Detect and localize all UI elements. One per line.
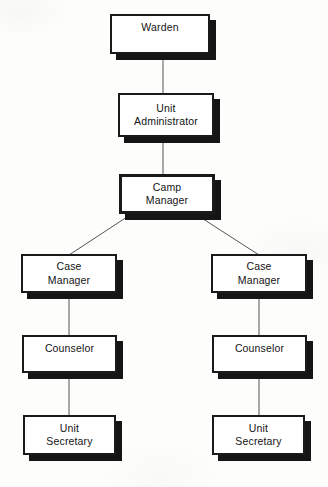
node-unit-secretary-left-label-line1: Unit [46, 422, 92, 436]
node-unit-administrator-label-line2: Administrator [134, 115, 198, 129]
connector-camp-manager-to-case-manager-right [197, 215, 259, 255]
org-chart: Warden Unit Administrator Camp Manager C… [0, 0, 328, 487]
node-warden-label: Warden [112, 21, 208, 35]
node-warden[interactable]: Warden [110, 14, 210, 54]
node-counselor-right[interactable]: Counselor [212, 335, 307, 373]
node-counselor-right-label: Counselor [214, 342, 305, 356]
node-unit-secretary-left[interactable]: Unit Secretary [23, 415, 116, 455]
node-camp-manager-label-line2: Manager [146, 194, 189, 208]
node-case-manager-left-label-line1: Case [48, 260, 91, 274]
node-case-manager-left-label-line2: Manager [48, 274, 91, 288]
node-unit-administrator[interactable]: Unit Administrator [118, 93, 214, 137]
node-unit-administrator-label-line1: Unit [134, 102, 198, 116]
connector-layer [0, 0, 328, 487]
node-case-manager-left[interactable]: Case Manager [21, 254, 117, 293]
node-unit-secretary-right-label-line1: Unit [235, 422, 281, 436]
node-case-manager-right[interactable]: Case Manager [211, 254, 307, 293]
connector-camp-manager-to-case-manager-left [69, 215, 130, 255]
node-unit-secretary-right-label-line2: Secretary [235, 435, 281, 449]
node-unit-secretary-right[interactable]: Unit Secretary [212, 415, 305, 455]
node-camp-manager[interactable]: Camp Manager [119, 174, 215, 214]
node-case-manager-right-label-line1: Case [238, 260, 281, 274]
node-counselor-left-label: Counselor [24, 342, 115, 356]
node-camp-manager-label-line1: Camp [146, 181, 189, 195]
node-unit-secretary-left-label-line2: Secretary [46, 435, 92, 449]
node-counselor-left[interactable]: Counselor [22, 335, 117, 373]
node-case-manager-right-label-line2: Manager [238, 274, 281, 288]
